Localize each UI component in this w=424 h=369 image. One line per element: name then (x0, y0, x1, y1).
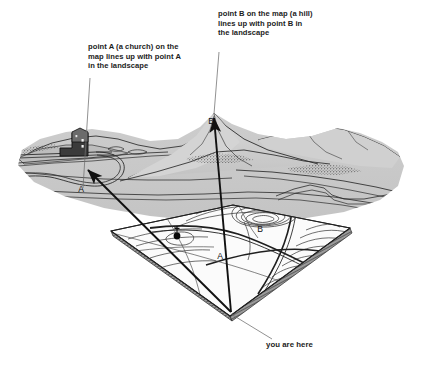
annotation-point-b: point B on the map (a hill) lines up wit… (218, 9, 336, 38)
church-window-1 (82, 139, 84, 142)
map-resection-diagram: A B (0, 0, 424, 369)
annotation-point-a: point A (a church) on the map lines up w… (88, 42, 200, 71)
leader-you-are-here (231, 314, 272, 339)
landscape-block: A B (18, 113, 404, 222)
map-label-a: A (217, 251, 223, 261)
church-window-3 (76, 135, 78, 137)
annotation-you-are-here: you are here (266, 340, 356, 350)
leader-point-b (214, 52, 219, 114)
map-label-b: B (257, 224, 263, 234)
map-plane: A B (111, 200, 352, 321)
church-window-2 (82, 145, 84, 148)
landscape-label-b: B (208, 116, 214, 126)
